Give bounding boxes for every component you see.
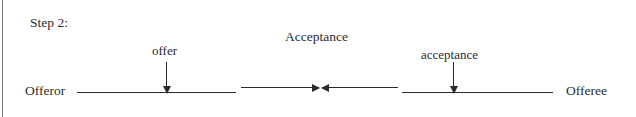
- offer-label: offer: [152, 44, 177, 57]
- step-title: Step 2:: [30, 16, 68, 30]
- offer-transfer-arrow-icon: [241, 87, 319, 88]
- offeree-label: Offeree: [566, 84, 607, 98]
- offeree-baseline: [402, 92, 553, 93]
- offeror-baseline: [77, 92, 236, 93]
- page-edge-border: [2, 0, 3, 117]
- acceptance-down-arrow-icon: [453, 62, 454, 87]
- right-arrowhead-icon: [312, 84, 320, 92]
- acceptance-transfer-arrow-icon: [322, 87, 398, 88]
- acceptance-heading: Acceptance: [285, 30, 348, 44]
- offeror-label: Offeror: [25, 84, 65, 98]
- left-arrowhead-icon: [321, 84, 329, 92]
- diagram-canvas: Step 2: offer Acceptance acceptance Offe…: [0, 0, 636, 117]
- acceptance-label: acceptance: [421, 48, 478, 61]
- offer-down-arrow-icon: [166, 62, 167, 87]
